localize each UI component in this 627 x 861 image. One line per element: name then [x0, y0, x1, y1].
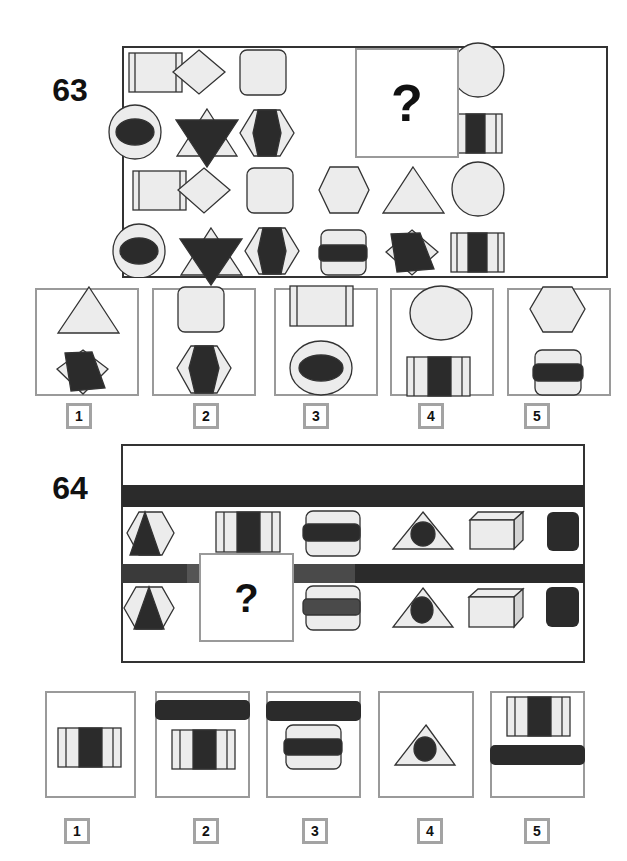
puzzle-64-option-1-label: 1 — [64, 818, 90, 844]
dark-bar — [155, 700, 250, 720]
puzzle-64-option-shapes — [0, 0, 627, 861]
puzzle-64-option-2-label: 2 — [193, 818, 219, 844]
puzzle-64-option-3-label: 3 — [302, 818, 328, 844]
puzzle-64-option-4-label: 4 — [417, 818, 443, 844]
rect-with-dark-stripe-icon — [172, 730, 235, 769]
rect-with-dark-stripe-icon — [507, 697, 570, 736]
triangle-with-dark-circle-icon — [395, 725, 455, 765]
rect-with-dark-stripe-icon — [58, 728, 121, 767]
rounded-square-with-dark-bar-icon — [284, 725, 342, 769]
puzzle-64-option-5-label: 5 — [524, 818, 550, 844]
dark-bar — [266, 701, 361, 721]
dark-bar — [490, 745, 585, 765]
